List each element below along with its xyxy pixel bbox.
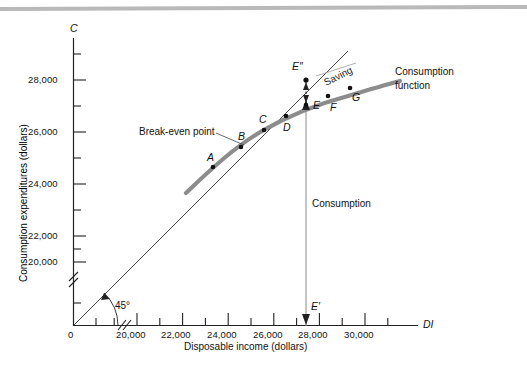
y-tick-label-24000: 24,000 xyxy=(28,178,58,189)
y-axis-major-ticks xyxy=(74,80,87,262)
data-point-D xyxy=(284,114,289,119)
saving-arrow-head-up xyxy=(303,82,309,90)
consumption-function-curve xyxy=(186,81,400,193)
data-point-G xyxy=(348,86,353,91)
point-label-C: C xyxy=(259,113,267,125)
y-tick-label-28000: 28,000 xyxy=(28,74,58,85)
data-point-dots xyxy=(211,77,353,169)
x-tick-label-28000: 28,000 xyxy=(298,329,328,340)
y-axis-minor-ticks xyxy=(74,54,82,303)
point-label-A: A xyxy=(207,151,214,163)
y-tick-label-20000: 20,000 xyxy=(28,256,58,267)
data-point-C xyxy=(262,128,267,133)
data-point-B xyxy=(239,145,244,150)
x-tick-label-24000: 24,000 xyxy=(207,329,237,340)
x-axis-title: Disposable income (dollars) xyxy=(184,341,307,352)
y-tick-label-26000: 26,000 xyxy=(28,126,58,137)
y-axis-symbol: C xyxy=(70,22,78,34)
saving-arrow-head-down xyxy=(303,95,309,103)
consumption-label: Consumption xyxy=(312,198,371,209)
chart-svg xyxy=(0,0,527,366)
forty-five-degree-line xyxy=(74,51,349,326)
e-double-prime-label: E″ xyxy=(292,60,303,72)
consumption-function-label-line2: function xyxy=(395,80,430,91)
x-tick-label-22000: 22,000 xyxy=(161,329,191,340)
data-point-E xyxy=(304,103,309,108)
x-tick-label-30000: 30,000 xyxy=(344,329,374,340)
point-label-D: D xyxy=(283,121,291,133)
x-axis-minor-ticks xyxy=(96,318,388,326)
origin-label: 0 xyxy=(68,329,73,340)
figure-canvas: C DI 0 Consumption expenditures (dollars… xyxy=(0,0,527,366)
x-axis-symbol: DI xyxy=(423,318,434,330)
top-divider-rule xyxy=(0,7,527,9)
point-label-G: G xyxy=(352,91,360,103)
point-label-F: F xyxy=(330,101,336,113)
x-tick-label-20000: 20,000 xyxy=(116,329,146,340)
x-tick-label-26000: 26,000 xyxy=(253,329,283,340)
e-prime-label: E′ xyxy=(311,300,320,312)
angle-label: 45° xyxy=(115,300,130,311)
e-prime-arrow-head xyxy=(302,314,310,325)
y-tick-label-22000: 22,000 xyxy=(28,230,58,241)
data-point-E-double-prime xyxy=(303,77,308,82)
point-label-E: E xyxy=(313,99,320,111)
consumption-function-label-line1: Consumption xyxy=(395,66,454,77)
point-label-B: B xyxy=(238,130,245,142)
data-point-F xyxy=(326,94,331,99)
break-even-point-label: Break-even point xyxy=(139,126,215,137)
data-point-A xyxy=(211,165,216,170)
